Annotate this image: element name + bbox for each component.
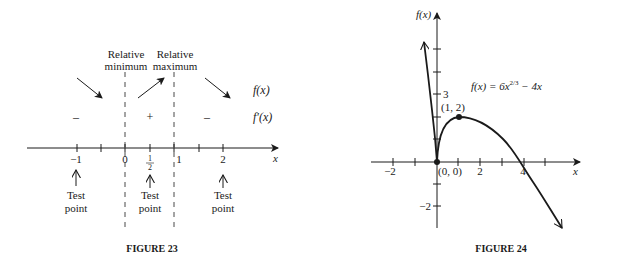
tick-label-0: 0 — [122, 153, 128, 165]
figure-24-caption: FIGURE 24 — [475, 243, 526, 254]
axis-label-x: x — [272, 152, 278, 164]
decreasing-arrow-icon-2 — [205, 78, 230, 98]
y-axis-label: f(x) — [416, 8, 432, 21]
test-point-label-3b: point — [212, 202, 235, 214]
point-max-label: (1, 2) — [441, 101, 465, 114]
sign-negative-1: – — [72, 110, 80, 124]
tick-label-neg1: −1 — [70, 153, 82, 165]
figure-24: f(x) x −2 2 4 3 −2 (1, 2) (0, 0) f(x) = … — [371, 8, 580, 254]
relative-maximum-label-1: Relative — [157, 48, 194, 60]
x-tick-label-2: 2 — [477, 165, 483, 177]
x-axis-label: x — [572, 165, 578, 177]
test-point-label-1a: Test — [67, 189, 85, 201]
increasing-arrow-icon — [138, 78, 164, 98]
y-tick-label-neg2: −2 — [419, 200, 431, 212]
test-point-label-2b: point — [139, 202, 162, 214]
sign-positive: + — [147, 110, 154, 124]
sign-negative-2: – — [203, 110, 211, 124]
y-tick-label-3: 3 — [443, 88, 449, 100]
row-label-fprime: f′(x) — [253, 110, 272, 124]
point-max — [456, 114, 462, 120]
figures-canvas: Relative minimum Relative maximum f(x) f… — [0, 0, 630, 262]
curve-left-branch — [424, 42, 437, 162]
row-label-fx: f(x) — [253, 83, 270, 97]
decreasing-arrow-icon — [77, 78, 102, 98]
equation-label: f(x) = 6x2/3 − 4x — [471, 79, 542, 93]
figure-23: Relative minimum Relative maximum f(x) f… — [27, 48, 278, 254]
relative-maximum-label-2: maximum — [153, 60, 198, 72]
tick-label-2: 2 — [220, 153, 226, 165]
tick-label-1: 1 — [176, 153, 182, 165]
equation-rhs: − 4x — [519, 80, 542, 92]
relative-minimum-label-2: minimum — [105, 60, 148, 72]
tick-label-half-num: 1 — [148, 154, 152, 163]
test-point-label-2a: Test — [141, 189, 159, 201]
relative-minimum-label-1: Relative — [108, 48, 145, 60]
point-origin-label: (0, 0) — [438, 165, 462, 178]
figure-23-caption: FIGURE 23 — [126, 243, 177, 254]
x-tick-label-neg2: −2 — [384, 165, 396, 177]
test-point-label-1b: point — [65, 202, 88, 214]
test-point-label-3a: Test — [214, 189, 232, 201]
equation-lhs: f(x) = 6x — [471, 80, 510, 93]
tick-label-half-den: 2 — [148, 163, 152, 172]
